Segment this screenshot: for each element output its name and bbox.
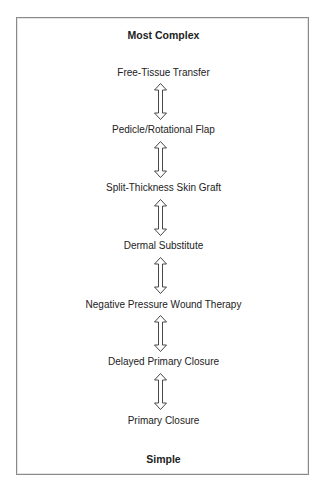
step-dermal-substitute: Dermal Substitute (0, 240, 327, 252)
double-arrow-icon (154, 141, 167, 178)
top-label-most-complex: Most Complex (0, 29, 327, 41)
double-arrow-icon (154, 373, 167, 410)
double-arrow-icon (154, 83, 167, 120)
step-free-tissue-transfer: Free-Tissue Transfer (0, 67, 327, 79)
step-primary-closure: Primary Closure (0, 415, 327, 427)
step-pedicle-rotational-flap: Pedicle/Rotational Flap (0, 124, 327, 136)
step-delayed-primary-closure: Delayed Primary Closure (0, 356, 327, 368)
step-negative-pressure-wound-therapy: Negative Pressure Wound Therapy (0, 299, 327, 311)
bottom-label-simple: Simple (0, 453, 327, 465)
step-split-thickness-skin-graft: Split-Thickness Skin Graft (0, 182, 327, 194)
double-arrow-icon (154, 257, 167, 294)
double-arrow-icon (154, 315, 167, 352)
double-arrow-icon (154, 199, 167, 236)
